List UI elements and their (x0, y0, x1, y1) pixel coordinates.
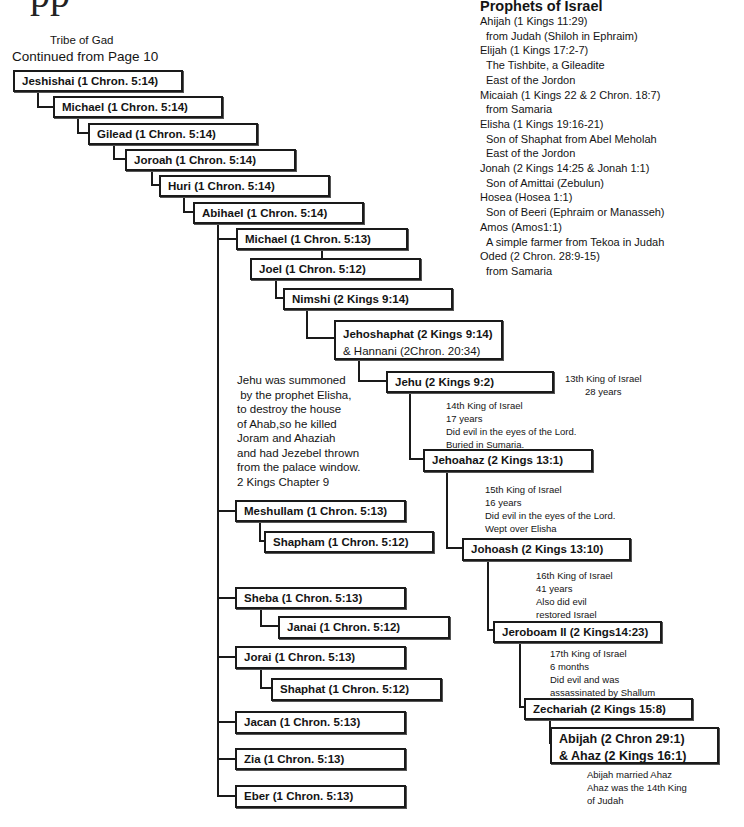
person-box-zechariah: Zechariah (2 Kings 15:8) (524, 698, 693, 720)
prophet-name: Ahijah (1 Kings 11:29) (480, 14, 665, 29)
note-line: 28 years (565, 385, 642, 398)
person-box-michael: Michael (1 Chron. 5:14) (53, 96, 223, 118)
prophet-desc: East of the Jordon (480, 146, 665, 161)
note-line: 16th King of Israel (536, 569, 613, 582)
prophet-desc: A simple farmer from Tekoa in Judah (480, 235, 665, 250)
note-line: Abijah married Ahaz (587, 768, 687, 781)
person-box-joel: Joel (1 Chron. 5:12) (250, 258, 421, 280)
prophet-desc: from Samaria (480, 264, 665, 279)
connector-line (409, 458, 424, 460)
connector-line (217, 795, 236, 797)
connector-line (260, 668, 262, 689)
note-line: of Judah (587, 794, 687, 807)
prophet-name: Amos (Amos1:1) (480, 220, 665, 235)
connector-line (217, 721, 236, 723)
note-line: Joram and Ahaziah (237, 431, 360, 446)
king-17-note: 17th King of Israel 6 months Did evil an… (550, 647, 655, 699)
connector-line (306, 337, 335, 339)
person-box-huri: Huri (1 Chron. 5:14) (159, 175, 330, 197)
prophet-desc: Son of Shaphat from Abel Meholah (480, 132, 665, 147)
connector-line (519, 642, 521, 708)
person-box-shapham: Shapham (1 Chron. 5:12) (264, 531, 434, 553)
person-box-abihael: Abihael (1 Chron. 5:14) (193, 202, 364, 224)
prophet-name: Elijah (1 Kings 17:2-7) (480, 43, 665, 58)
king-14-note: 14th King of Israel 17 years Did evil in… (446, 399, 576, 451)
connector-line (321, 249, 323, 258)
note-line: assassinated by Shallum (550, 686, 655, 699)
king-15-note: 15th King of Israel 16 years Did evil in… (485, 483, 615, 535)
connector-line (37, 106, 54, 108)
note-line: Buried in Sumaria. (446, 438, 576, 451)
person-box-jehoahaz: Jehoahaz (2 Kings 13:1) (423, 449, 593, 472)
note-line: Did evil in the eyes of the Lord. (485, 509, 615, 522)
prophet-desc: The Tishbite, a Gileadite (480, 58, 665, 73)
prophet-name: Micaiah (1 Kings 22 & 2 Chron. 18:7) (480, 88, 665, 103)
person-box-jehu: Jehu (2 Kings 9:2) (386, 371, 554, 393)
person-box-gilead: Gilead (1 Chron. 5:14) (88, 123, 258, 145)
note-line: 6 months (550, 660, 655, 673)
connector-line (446, 471, 448, 549)
connector-line (487, 560, 489, 631)
jehu-story-note: Jehu was summoned by the prophet Elisha,… (237, 373, 360, 489)
connector-line (37, 91, 39, 107)
connector-line (217, 510, 236, 512)
note-line: 15th King of Israel (485, 483, 615, 496)
note-line: Jehu was summoned (237, 373, 360, 388)
person-box-meshullam: Meshullam (1 Chron. 5:13) (235, 500, 406, 522)
note-line: Ahaz was the 14th King (587, 781, 687, 794)
prophet-name: Hosea (Hosea 1:1) (480, 190, 665, 205)
king-13-note: 13th King of Israel 28 years (565, 372, 642, 398)
note-line: 41 years (536, 582, 613, 595)
person-box-michael-2: Michael (1 Chron. 5:13) (236, 228, 408, 250)
person-box-janai: Janai (1 Chron. 5:12) (278, 616, 450, 639)
note-line: 16 years (485, 496, 615, 509)
person-box-jehoshaphat: Jehoshaphat (2 Kings 9:14) & Hannani (2C… (334, 320, 503, 360)
person-box-shaphat: Shaphat (1 Chron. 5:12) (271, 678, 442, 701)
continued-label: Continued from Page 10 (12, 49, 158, 64)
prophet-name: Elisha (1 Kings 19:16-21) (480, 117, 665, 132)
note-line: and had Jezebel thrown (237, 446, 360, 461)
connector-line (217, 597, 236, 599)
person-box-jeshishai: Jeshishai (1 Chron. 5:14) (13, 70, 183, 92)
note-line: Also did evil (536, 595, 613, 608)
person-box-jeroboam-ii: Jeroboam II (2 Kings14:23) (493, 621, 662, 643)
person-box-nimshi: Nimshi (2 Kings 9:14) (283, 288, 453, 310)
prophet-desc: from Samaria (480, 102, 665, 117)
prophet-desc: Son of Amittai (Zebulun) (480, 176, 665, 191)
person-box-eber: Eber (1 Chron. 5:13) (235, 785, 406, 808)
page-title-fragment: pp (30, 0, 70, 14)
connector-line (217, 238, 236, 240)
box-line-1: Abijah (2 Chron 29:1) (559, 732, 685, 746)
box-line-2: & Hannani (2Chron. 20:34) (343, 343, 501, 359)
connector-line (306, 309, 308, 339)
note-line: 17 years (446, 412, 576, 425)
note-line: from the palace window. (237, 460, 360, 475)
tribe-label: Tribe of Gad (50, 34, 114, 46)
person-box-zia: Zia (1 Chron. 5:13) (235, 748, 406, 770)
person-box-joroah: Joroah (1 Chron. 5:14) (125, 149, 296, 171)
prophets-title: Prophets of Israel (480, 0, 665, 14)
abijah-note: Abijah married Ahaz Ahaz was the 14th Ki… (587, 768, 687, 807)
king-16-note: 16th King of Israel 41 years Also did ev… (536, 569, 613, 621)
prophet-name: Oded (2 Chron. 28:9-15) (480, 249, 665, 264)
person-box-jorai: Jorai (1 Chron. 5:13) (235, 646, 406, 669)
prophet-desc: from Judah (Shiloh in Ephraim) (480, 29, 665, 44)
connector-line (446, 547, 463, 549)
person-box-johoash: Johoash (2 Kings 13:10) (462, 538, 631, 561)
note-line: restored Israel (536, 608, 613, 621)
connector-line (358, 380, 387, 382)
note-line: 17th King of Israel (550, 647, 655, 660)
note-line: Did evil in the eyes of the Lord. (446, 425, 576, 438)
connector-line (409, 392, 411, 460)
note-line: Wept over Elisha (485, 522, 615, 535)
prophets-list: Prophets of Israel Ahijah (1 Kings 11:29… (480, 0, 665, 279)
box-line-2: & Ahaz (2 Kings 16:1) (559, 748, 717, 764)
connector-line (260, 625, 279, 627)
connector-line (259, 521, 261, 542)
note-line: to destroy the house (237, 402, 360, 417)
person-box-jacan: Jacan (1 Chron. 5:13) (235, 711, 406, 734)
note-line: Did evil and was (550, 673, 655, 686)
prophet-desc: Son of Beeri (Ephraim or Manasseh) (480, 205, 665, 220)
prophet-desc: East of the Jordon (480, 73, 665, 88)
connector-line (217, 758, 236, 760)
